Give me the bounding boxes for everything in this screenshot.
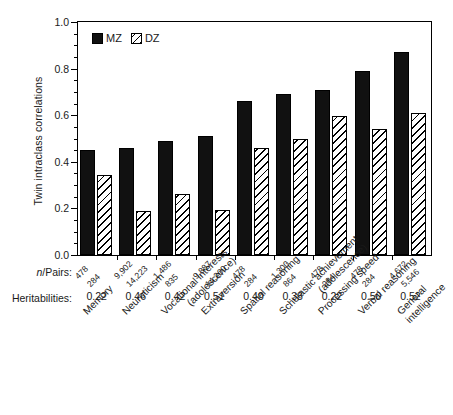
bar-dz[interactable] — [372, 129, 387, 255]
y-axis-major-tick — [71, 69, 78, 70]
bar-mz[interactable] — [315, 90, 330, 255]
npairs-dz-value: 284 — [85, 272, 102, 289]
plot-area: MZ DZ 0.00.20.40.60.81.0 — [77, 21, 432, 256]
bar-dz[interactable] — [136, 211, 151, 255]
category-label-anchor: Vocational interests(adolescence) — [159, 309, 161, 311]
bar-mz[interactable] — [394, 52, 409, 255]
y-axis-major-tick — [71, 162, 78, 163]
npairs-dz-value: 835 — [163, 272, 180, 289]
twin-correlation-chart-figure: Twin intraclass correlations MZ DZ 0.00.… — [0, 0, 453, 415]
category-label-anchor: Generalintelligence — [395, 309, 397, 311]
y-axis-tick-label: 0.6 — [54, 109, 69, 121]
npairs-row-title: n/Pairs: — [0, 266, 72, 278]
y-axis-major-tick — [71, 208, 78, 209]
bar-mz[interactable] — [198, 136, 213, 255]
bar-group — [313, 22, 352, 255]
category-label-anchor: Extraversion — [199, 309, 201, 311]
bar-mz[interactable] — [355, 71, 370, 255]
category-label-anchor: Scholastic achievement(adolescence) — [277, 309, 279, 311]
y-axis-tick-label: 0.0 — [54, 249, 69, 261]
category-label-anchor: Spatial reasoning — [238, 309, 240, 311]
bar-mz[interactable] — [276, 94, 291, 255]
y-axis-title: Twin intraclass correlations — [32, 41, 44, 241]
bar-group — [274, 22, 313, 255]
bar-group — [117, 22, 156, 255]
heritabilities-row-title: Heritabilities: — [0, 292, 72, 304]
bar-mz[interactable] — [237, 101, 252, 255]
npairs-cell: 478284 — [78, 255, 114, 287]
y-axis-tick-label: 0.8 — [54, 63, 69, 75]
bar-dz[interactable] — [332, 116, 347, 255]
bar-mz[interactable] — [158, 141, 173, 255]
bar-dz[interactable] — [97, 175, 112, 255]
bar-dz[interactable] — [411, 113, 426, 255]
npairs-label-rest: /Pairs: — [42, 266, 72, 278]
y-axis-major-tick — [71, 115, 78, 116]
y-axis-tick-label: 1.0 — [54, 16, 69, 28]
y-axis-tick-label: 0.2 — [54, 202, 69, 214]
bar-mz[interactable] — [80, 150, 95, 255]
category-label-anchor: Memory — [81, 309, 83, 311]
bar-group — [156, 22, 195, 255]
bar-group — [392, 22, 431, 255]
y-axis-major-tick — [71, 255, 78, 256]
y-axis-major-tick — [71, 22, 78, 23]
category-label-anchor: Neuroticism — [120, 309, 122, 311]
bar-dz[interactable] — [175, 194, 190, 255]
bar-dz[interactable] — [293, 139, 308, 256]
bar-dz[interactable] — [254, 148, 269, 255]
bar-mz[interactable] — [119, 148, 134, 255]
category-label-anchor: Processing speed — [316, 309, 318, 311]
bar-group — [353, 22, 392, 255]
category-label-anchor: Verbal reasoning — [356, 309, 358, 311]
bar-group — [196, 22, 235, 255]
bar-group — [235, 22, 274, 255]
bar-group — [78, 22, 117, 255]
y-axis-tick-label: 0.4 — [54, 156, 69, 168]
